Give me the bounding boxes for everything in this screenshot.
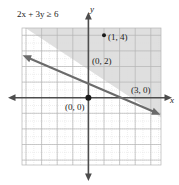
point-label-0-0: (0, 0) [65, 103, 85, 112]
graph-canvas [0, 0, 179, 185]
point-label-3-0: (3, 0) [131, 86, 151, 95]
point-marker-0-0 [85, 95, 91, 101]
point-label-1-4: (1, 4) [108, 33, 128, 42]
inequality-label: 2x + 3y ≥ 6 [17, 10, 59, 19]
x-axis-label: x [170, 96, 174, 105]
point-label-0-2: (0, 2) [92, 57, 112, 66]
point-marker-1-4 [102, 33, 106, 37]
y-axis-label: y [90, 5, 94, 14]
inequality-graph-figure: 2x + 3y ≥ 6 (1, 4) (0, 2) (3, 0) (0, 0) … [0, 0, 179, 185]
